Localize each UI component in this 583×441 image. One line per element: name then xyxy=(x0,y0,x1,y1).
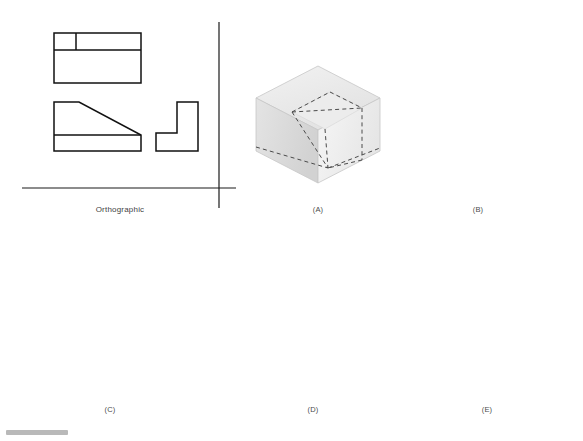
option-d-label: (D) xyxy=(293,405,333,414)
option-a-label: (A) xyxy=(298,205,338,214)
footer-accent-bar xyxy=(6,430,68,435)
exercise-page: Orthographic (A) (B) (C) (D) (E) xyxy=(0,0,583,441)
front-view xyxy=(54,102,141,151)
top-view xyxy=(54,33,141,83)
option-c-label: (C) xyxy=(90,405,130,414)
technical-drawing-figure xyxy=(0,0,583,441)
orthographic-panel xyxy=(22,22,236,208)
option-e-label: (E) xyxy=(467,405,507,414)
orthographic-label: Orthographic xyxy=(80,205,160,214)
option-b-label: (B) xyxy=(458,205,498,214)
side-view xyxy=(156,102,198,151)
option-a-figure xyxy=(256,66,380,183)
